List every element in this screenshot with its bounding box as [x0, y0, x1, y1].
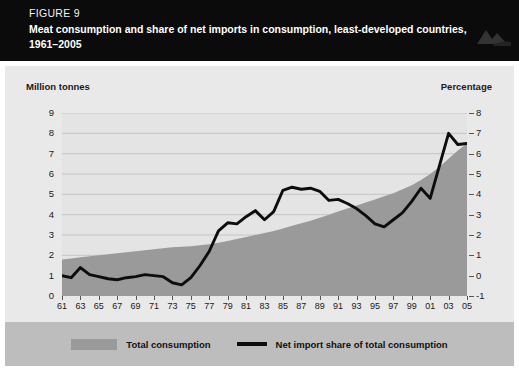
x-axis-tick-label: 61: [53, 301, 71, 311]
x-axis-tick-label: 77: [200, 301, 218, 311]
legend-label-net-import-share: Net import share of total consumption: [276, 339, 448, 350]
chart-legend: Total consumption Net import share of to…: [5, 322, 514, 366]
x-axis-tick-mark: [393, 296, 394, 300]
right-axis-tick-mark: [469, 296, 474, 297]
decorative-watermark-icon: [473, 22, 513, 48]
x-axis-tick-mark: [228, 296, 229, 300]
x-axis-tick-mark: [80, 296, 81, 300]
right-axis-tick-label: 2: [476, 229, 494, 240]
right-axis-tick-label: 5: [476, 168, 494, 179]
x-axis-tick-mark: [338, 296, 339, 300]
figure-title: Meat consumption and share of net import…: [29, 22, 479, 52]
right-axis-tick-mark: [469, 215, 474, 216]
x-axis-tick-label: 93: [348, 301, 366, 311]
left-axis-title: Million tonnes: [26, 81, 90, 92]
x-axis-tick-label: 99: [403, 301, 421, 311]
x-axis-tick-label: 97: [384, 301, 402, 311]
x-axis-tick-label: 75: [182, 301, 200, 311]
x-axis-tick-label: 63: [71, 301, 89, 311]
left-axis-tick-label: 2: [36, 249, 54, 260]
x-axis-tick-mark: [449, 296, 450, 300]
x-axis-tick-mark: [375, 296, 376, 300]
x-axis-tick-label: 89: [311, 301, 329, 311]
left-axis-tick-label: 5: [36, 188, 54, 199]
right-axis-tick-label: -1: [476, 290, 494, 301]
right-axis-tick-label: 1: [476, 249, 494, 260]
x-axis-tick-label: 71: [145, 301, 163, 311]
right-axis-tick-mark: [469, 133, 474, 134]
left-axis-tick-label: 7: [36, 148, 54, 159]
right-axis-tick-label: 8: [476, 107, 494, 118]
left-axis-tick-label: 1: [36, 270, 54, 281]
legend-item-net-import-share: Net import share of total consumption: [237, 339, 448, 350]
x-axis-tick-label: 81: [237, 301, 255, 311]
right-axis-tick-label: 4: [476, 188, 494, 199]
right-axis-tick-label: 3: [476, 209, 494, 220]
right-axis-tick-label: 0: [476, 270, 494, 281]
right-axis-tick-mark: [469, 276, 474, 277]
x-axis-tick-label: 67: [108, 301, 126, 311]
x-axis-tick-label: 87: [292, 301, 310, 311]
area-swatch-icon: [71, 339, 117, 350]
left-axis-tick-label: 6: [36, 168, 54, 179]
x-axis-tick-mark: [283, 296, 284, 300]
right-axis-tick-label: 6: [476, 148, 494, 159]
figure-header: FIGURE 9 Meat consumption and share of n…: [0, 0, 519, 61]
x-axis-tick-mark: [117, 296, 118, 300]
x-axis-tick-label: 01: [421, 301, 439, 311]
x-axis-tick-mark: [357, 296, 358, 300]
x-axis-tick-label: 91: [329, 301, 347, 311]
x-axis-tick-mark: [136, 296, 137, 300]
x-axis-tick-mark: [320, 296, 321, 300]
right-axis-tick-mark: [469, 235, 474, 236]
x-axis-tick-label: 79: [219, 301, 237, 311]
x-axis-tick-label: 03: [440, 301, 458, 311]
x-axis-tick-label: 83: [256, 301, 274, 311]
right-axis-tick-mark: [469, 174, 474, 175]
chart-svg: [62, 113, 467, 296]
x-axis-tick-mark: [154, 296, 155, 300]
right-axis-title: Percentage: [441, 81, 492, 92]
x-axis-tick-label: 65: [90, 301, 108, 311]
right-axis-tick-mark: [469, 194, 474, 195]
x-axis-tick-label: 85: [274, 301, 292, 311]
x-axis-tick-mark: [99, 296, 100, 300]
legend-label-total-consumption: Total consumption: [126, 339, 210, 350]
left-axis-tick-label: 0: [36, 290, 54, 301]
plot-area: [62, 113, 467, 296]
x-axis-tick-mark: [209, 296, 210, 300]
line-swatch-icon: [237, 342, 267, 346]
x-axis-tick-label: 95: [366, 301, 384, 311]
x-axis-tick-mark: [412, 296, 413, 300]
right-axis-tick-label: 7: [476, 127, 494, 138]
x-axis-tick-mark: [430, 296, 431, 300]
left-axis-tick-label: 8: [36, 127, 54, 138]
right-axis-tick-mark: [469, 255, 474, 256]
x-axis-tick-mark: [191, 296, 192, 300]
x-axis-tick-mark: [172, 296, 173, 300]
x-axis-tick-mark: [246, 296, 247, 300]
x-axis-tick-mark: [62, 296, 63, 300]
x-axis-tick-label: 69: [127, 301, 145, 311]
left-axis-tick-label: 9: [36, 107, 54, 118]
right-axis-tick-mark: [469, 154, 474, 155]
left-axis-tick-label: 4: [36, 209, 54, 220]
right-axis-tick-mark: [469, 113, 474, 114]
x-axis-tick-label: 73: [163, 301, 181, 311]
x-axis-tick-mark: [301, 296, 302, 300]
figure-number: FIGURE 9: [29, 7, 80, 19]
left-axis-tick-label: 3: [36, 229, 54, 240]
x-axis-tick-mark: [467, 296, 468, 300]
legend-item-total-consumption: Total consumption: [71, 339, 210, 350]
x-axis-tick-label: 05: [458, 301, 476, 311]
x-axis-tick-mark: [265, 296, 266, 300]
figure-container: FIGURE 9 Meat consumption and share of n…: [0, 0, 519, 371]
